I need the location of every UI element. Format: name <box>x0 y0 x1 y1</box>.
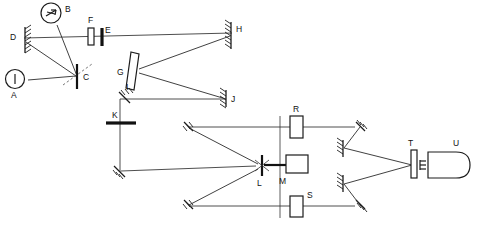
tl-hatch-2 <box>337 177 343 181</box>
s-rect <box>290 196 303 217</box>
m-box <box>286 155 308 173</box>
d-hatch-6 <box>25 45 31 49</box>
beam-rightupper-to-tupper <box>344 127 360 148</box>
h-hatch-7 <box>225 44 231 48</box>
beam-a-to-c <box>28 76 76 80</box>
label-d: D <box>10 32 16 42</box>
ua-hatch-3 <box>189 122 193 127</box>
beam-l-to-upper-arm <box>189 128 258 164</box>
component-j-mirror: J <box>220 88 235 108</box>
d-hatch-2 <box>25 29 31 33</box>
fold-mirror-lower-left-arm <box>183 200 193 209</box>
label-t: T <box>408 138 413 148</box>
h-hatch-6 <box>225 40 231 44</box>
label-k: K <box>112 110 118 120</box>
h-hatch-2 <box>225 24 231 28</box>
j-hatch-5 <box>220 104 226 108</box>
beam-g-to-j <box>139 73 226 99</box>
t-rect <box>411 150 417 178</box>
label-i: I <box>126 82 128 92</box>
label-m: M <box>279 176 286 186</box>
label-a: A <box>11 90 17 100</box>
component-t-window: T <box>408 138 426 178</box>
tu-hatch-3 <box>337 146 343 150</box>
r-rect <box>290 116 303 138</box>
beam-l-to-lower-arm <box>189 169 258 205</box>
tl-hatch-3 <box>337 181 343 185</box>
j-hatch-4 <box>220 100 226 104</box>
h-hatch-3 <box>225 28 231 32</box>
component-s-cell: S <box>290 190 313 217</box>
tl-hatch-4 <box>337 185 343 189</box>
j-hatch-1 <box>220 88 226 92</box>
h-hatch-1 <box>225 20 231 24</box>
beam-tlower-to-t <box>344 165 412 184</box>
component-l-combiner: L <box>255 155 269 188</box>
component-k-bar: K <box>106 110 136 123</box>
component-b-source: B <box>41 3 71 23</box>
label-g: G <box>117 67 124 77</box>
label-b: B <box>65 4 71 14</box>
beam-d-to-c <box>26 42 76 76</box>
optical-diagram-canvas: A B D C <box>0 0 477 225</box>
d-hatch-1 <box>25 25 31 29</box>
tu-hatch-2 <box>337 142 343 146</box>
d-hatch-3 <box>25 33 31 37</box>
optical-layout-svg: A B D C <box>0 0 477 225</box>
f-rect <box>88 28 94 45</box>
component-h-mirror: H <box>225 20 242 49</box>
label-e: E <box>105 25 111 35</box>
tl-hatch-1 <box>337 173 343 177</box>
beam-d-to-h <box>24 33 232 38</box>
component-a-source: A <box>6 70 25 101</box>
label-s: S <box>307 190 313 200</box>
beam-lowerfold-to-l <box>121 166 256 171</box>
label-r: R <box>293 104 299 114</box>
component-u-chamber: U <box>428 138 470 178</box>
lower-left-mirror-face <box>114 166 125 177</box>
j-hatch-2 <box>220 92 226 96</box>
beam-h-to-g <box>139 36 230 69</box>
label-f: F <box>88 15 93 25</box>
component-m-detector: M <box>279 155 308 186</box>
label-u: U <box>453 138 459 148</box>
fold-mirror-t-lower <box>337 173 343 192</box>
label-l: L <box>257 178 262 188</box>
component-r-cell: R <box>290 104 303 138</box>
beam-b-to-c <box>57 25 77 76</box>
label-c: C <box>83 72 89 82</box>
component-f-window: F <box>88 15 94 45</box>
ua-hatch-1 <box>183 126 187 131</box>
fold-mirror-lower-left <box>113 166 125 179</box>
u-body <box>428 152 470 178</box>
fold-mirror-t-upper <box>337 138 343 157</box>
tu-hatch-1 <box>337 138 343 142</box>
label-j: J <box>231 94 235 104</box>
beam-tupper-to-t <box>344 148 412 165</box>
label-h: H <box>236 24 242 34</box>
tu-hatch-4 <box>337 150 343 154</box>
la-hatch-1 <box>183 204 187 209</box>
component-d-mirror: D <box>10 25 31 53</box>
d-hatch-7 <box>25 49 31 53</box>
beam-rightlower-to-tlower <box>344 184 360 205</box>
